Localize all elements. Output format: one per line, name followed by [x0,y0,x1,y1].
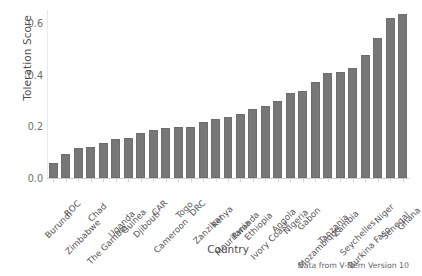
bar [86,147,95,178]
x-tick-mark [91,179,92,182]
x-tick-mark [240,179,241,182]
bar [211,119,220,178]
bar [149,130,158,178]
x-tick-mark [53,179,54,182]
y-tick-label: 0.0 [17,173,43,184]
bar [261,106,270,178]
bar [336,72,345,178]
x-tick-mark [390,179,391,182]
bar [298,91,307,178]
x-tick-mark [265,179,266,182]
x-tick-mark [116,179,117,182]
x-tick-mark [278,179,279,182]
x-tick-mark [315,179,316,182]
x-tick-mark [178,179,179,182]
bar [286,93,295,178]
y-tick-label: 0.4 [17,69,43,80]
bar [99,143,108,178]
bar [49,163,58,178]
plot-area [47,10,409,178]
bar [248,109,257,178]
x-tick-mark [365,179,366,182]
bar [61,154,70,178]
x-tick-mark [153,179,154,182]
x-tick-mark [253,179,254,182]
bar [111,139,120,178]
x-tick-mark [340,179,341,182]
x-tick-mark [216,179,217,182]
x-tick-mark [66,179,67,182]
x-tick-mark [191,179,192,182]
bar [311,82,320,178]
bar [273,101,282,178]
x-tick-mark [228,179,229,182]
bar [348,68,357,178]
bar [186,127,195,178]
x-tick-mark [128,179,129,182]
bar [136,133,145,178]
x-tick-mark [103,179,104,182]
y-axis-tick-labels: 0.00.20.40.6 [12,0,43,276]
bar [124,138,133,178]
bar [236,114,245,178]
bar [161,128,170,178]
bar [74,148,83,178]
bar [361,55,370,178]
x-tick-mark [378,179,379,182]
bar [373,38,382,178]
x-tick-mark [141,179,142,182]
x-tick-mark [166,179,167,182]
bar [386,18,395,178]
y-tick-label: 0.6 [17,17,43,28]
x-tick-mark [403,179,404,182]
x-tick-mark [328,179,329,182]
x-tick-mark [290,179,291,182]
bar [398,14,407,178]
x-tick-mark [78,179,79,182]
bar [199,122,208,178]
bar [224,117,233,179]
bar [323,73,332,178]
x-tick-mark [203,179,204,182]
y-tick-label: 0.2 [17,121,43,132]
bar [174,127,183,178]
x-tick-mark [353,179,354,182]
x-tick-mark [303,179,304,182]
